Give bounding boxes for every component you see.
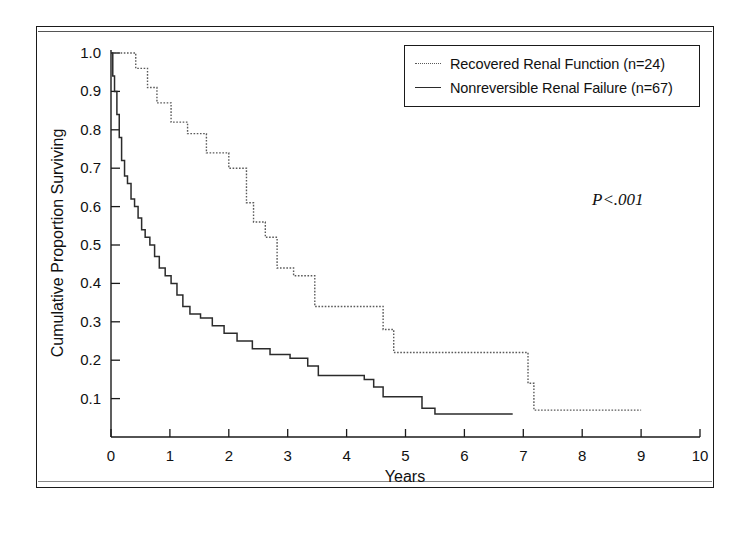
y-tick-label: 0.9 <box>80 82 101 99</box>
x-axis-group: 012345678910 <box>107 429 709 464</box>
x-tick-label: 0 <box>107 447 115 464</box>
x-tick-label: 4 <box>342 447 350 464</box>
x-tick-label: 5 <box>401 447 409 464</box>
y-axis-group: 0.10.20.30.40.50.60.70.80.91.0 <box>80 44 120 437</box>
x-tick-label: 10 <box>692 447 709 464</box>
y-tick-labels: 0.10.20.30.40.50.60.70.80.91.0 <box>80 44 101 407</box>
legend-item-label: Nonreversible Renal Failure (n=67) <box>450 80 673 96</box>
y-tick-marks <box>111 53 120 399</box>
y-axis-title: Cumulative Proportion Surviving <box>49 129 66 358</box>
y-tick-label: 0.6 <box>80 198 101 215</box>
y-tick-label: 0.4 <box>80 274 101 291</box>
legend-solid-line-icon <box>415 82 441 94</box>
x-tick-label: 7 <box>519 447 527 464</box>
y-tick-label: 0.7 <box>80 159 101 176</box>
y-tick-label: 0.2 <box>80 351 101 368</box>
y-tick-label: 0.5 <box>80 236 101 253</box>
y-tick-label: 0.3 <box>80 313 101 330</box>
x-tick-label: 2 <box>225 447 233 464</box>
x-tick-label: 8 <box>578 447 586 464</box>
legend-item-recovered: Recovered Renal Function (n=24) <box>415 52 699 76</box>
y-tick-label: 1.0 <box>80 44 101 61</box>
p-value-annotation: P<.001 <box>591 190 644 209</box>
x-tick-label: 1 <box>166 447 174 464</box>
x-tick-label: 6 <box>460 447 468 464</box>
y-tick-label: 0.8 <box>80 121 101 138</box>
y-tick-label: 0.1 <box>80 390 101 407</box>
legend-dotted-line-icon <box>415 58 441 70</box>
legend-item-label: Recovered Renal Function (n=24) <box>450 56 665 72</box>
legend-item-nonreversible: Nonreversible Renal Failure (n=67) <box>415 76 699 100</box>
x-tick-labels: 012345678910 <box>107 447 709 464</box>
curve-nonreversible-renal-failure <box>111 53 513 414</box>
x-tick-label: 3 <box>284 447 292 464</box>
x-axis-title: Years <box>385 468 425 485</box>
chart-legend: Recovered Renal Function (n=24) Nonrever… <box>404 45 700 107</box>
x-tick-marks <box>111 429 700 437</box>
x-tick-label: 9 <box>637 447 645 464</box>
